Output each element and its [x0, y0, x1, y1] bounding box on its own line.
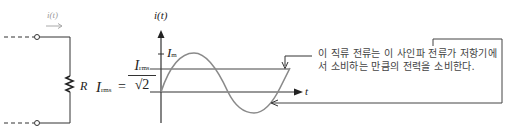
graph — [150, 30, 303, 123]
equals-sign: = — [118, 80, 126, 94]
resistor-icon — [66, 76, 73, 92]
rms-fraction: Irms √2 — [128, 58, 156, 93]
peak-label: Im — [167, 46, 177, 59]
current-label: i(t) — [47, 11, 58, 20]
fraction-denominator: √2 — [128, 77, 156, 93]
rms-current-diagram: i(t) R Irms = Irms √2 i(t) t Im 이 직류 전류는… — [0, 0, 516, 129]
x-axis-arrow-icon — [294, 89, 303, 96]
numerator-subscript: rms — [139, 64, 150, 72]
sine-wave-curve — [161, 53, 290, 113]
x-axis-label: t — [305, 86, 308, 97]
bottom-terminal-icon — [35, 121, 40, 126]
irms-subscript: rms — [101, 86, 112, 94]
fraction-numerator: Irms — [128, 58, 156, 76]
peak-subscript: m — [171, 51, 176, 59]
circuit — [4, 24, 73, 126]
y-axis-arrow-icon — [158, 30, 165, 38]
irms-lhs: Irms — [96, 80, 112, 95]
y-axis-label: i(t) — [154, 10, 167, 21]
resistor-label: R — [80, 80, 87, 92]
top-terminal-icon — [35, 35, 40, 40]
callout-text: 이 직류 전류는 이 사인파 전류가 저항기에서 소비하는 만큼의 전력을 소비… — [318, 47, 504, 73]
